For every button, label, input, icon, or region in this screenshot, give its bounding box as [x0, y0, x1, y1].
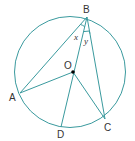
circle-diagram: B A O D C x y [0, 0, 135, 141]
segment-ba [20, 17, 87, 93]
angle-x-label: x [73, 32, 78, 42]
label-d: D [57, 129, 64, 140]
label-o: O [64, 60, 72, 71]
circle [15, 17, 126, 128]
angle-y-label: y [83, 36, 88, 46]
label-a: A [9, 92, 16, 103]
segment-oc [73, 72, 105, 119]
label-b: B [83, 4, 90, 15]
label-c: C [104, 122, 111, 133]
segment-oa [20, 72, 73, 93]
angle-y-arc [84, 31, 90, 34]
angle-x-arc [80, 25, 84, 27]
